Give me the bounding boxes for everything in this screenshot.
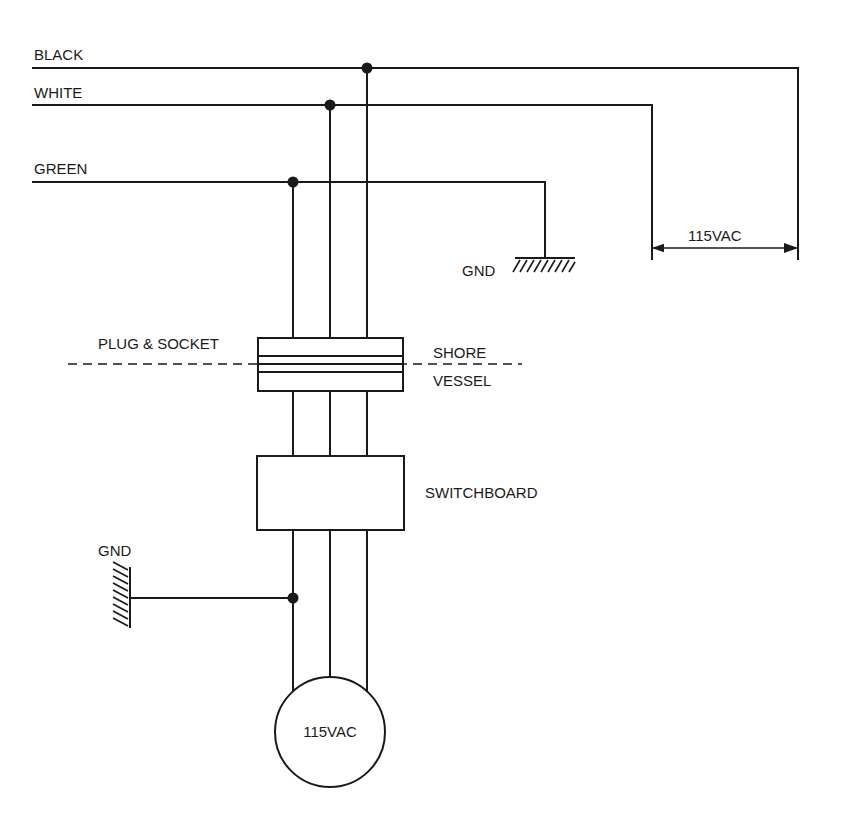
wire-label-black: BLACK bbox=[34, 46, 83, 63]
supply-voltage-label: 115VAC bbox=[688, 227, 742, 244]
schematic-canvas: BLACK WHITE GREEN GND 115VAC bbox=[0, 0, 841, 822]
plug-socket-block bbox=[258, 338, 403, 391]
shore-ground-icon bbox=[513, 258, 575, 272]
vessel-label: VESSEL bbox=[433, 372, 491, 389]
shore-ground-label: GND bbox=[462, 262, 496, 279]
junction-dot-black bbox=[362, 63, 373, 74]
switchboard-block bbox=[257, 456, 404, 530]
wire-label-green: GREEN bbox=[34, 160, 87, 177]
vessel-conductors-lower bbox=[293, 530, 367, 693]
junction-dot-green bbox=[288, 177, 299, 188]
vessel-ground-label: GND bbox=[98, 542, 132, 559]
junction-dot-white bbox=[325, 100, 336, 111]
shore-label: SHORE bbox=[433, 344, 486, 361]
green-wire bbox=[32, 182, 545, 258]
plug-socket-label: PLUG & SOCKET bbox=[98, 335, 219, 352]
wire-label-white: WHITE bbox=[34, 84, 82, 101]
switchboard-label: SWITCHBOARD bbox=[425, 484, 538, 501]
black-wire bbox=[32, 68, 798, 260]
load-voltage-label: 115VAC bbox=[303, 723, 357, 740]
vessel-ground-icon bbox=[113, 562, 130, 628]
vessel-conductors-upper bbox=[293, 391, 367, 456]
junction-dot-vessel-ground bbox=[288, 593, 299, 604]
